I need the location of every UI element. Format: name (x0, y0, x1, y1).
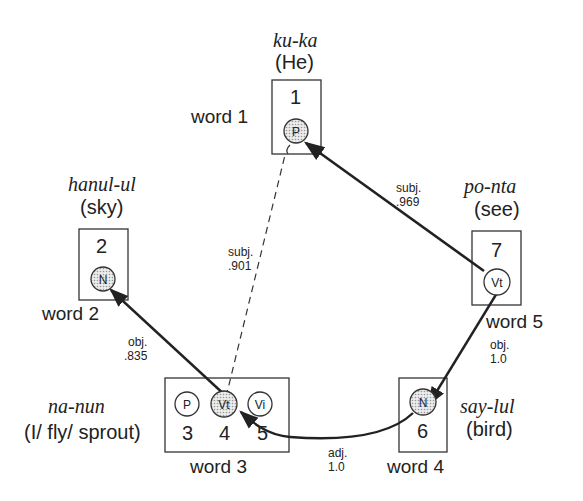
edge-relation: subj. (228, 245, 253, 259)
word3-korean: na-nun (48, 396, 105, 416)
word5-unit-num: 7 (491, 240, 502, 260)
word3-label: word 3 (190, 457, 247, 476)
word4-korean: say-lul (460, 396, 514, 416)
word5-korean: po-nta (464, 176, 516, 196)
edge-obj-10 (429, 293, 497, 404)
word4-label: word 4 (387, 457, 444, 476)
word2-label: word 2 (42, 304, 99, 323)
edge-weight: 1.0 (328, 460, 347, 474)
edge-label-subj-901: subj. .901 (228, 245, 253, 273)
word4-unit-num: 6 (417, 421, 428, 441)
word1-gloss: (He) (275, 52, 314, 72)
edge-weight: 1.0 (490, 352, 509, 366)
edge-label-adj-10: adj. 1.0 (328, 446, 347, 474)
edge-weight: .901 (228, 259, 253, 273)
word5-label: word 5 (486, 312, 543, 331)
node-3-tag: P (183, 398, 191, 412)
edge-relation: obj. (118, 335, 147, 349)
node-6-tag: N (419, 396, 428, 410)
word1-korean: ku-ka (273, 30, 317, 50)
word2-gloss: (sky) (80, 197, 123, 217)
word5-gloss: (see) (474, 199, 520, 219)
word3-unit-num-4: 4 (219, 423, 230, 443)
edge-label-obj-835: obj. .835 (118, 335, 147, 363)
edge-subj-969 (306, 143, 484, 271)
node-4-tag: Vt (218, 398, 230, 412)
edge-weight: .969 (396, 195, 421, 209)
word3-unit-num-5: 5 (257, 423, 268, 443)
word1-label: word 1 (191, 107, 248, 126)
word3-gloss: (I/ fly/ sprout) (24, 422, 141, 442)
node-1-tag: P (292, 125, 300, 139)
node-2-tag: N (99, 273, 108, 287)
edge-subj-901 (226, 155, 285, 397)
word3-unit-num-3: 3 (182, 423, 193, 443)
word1-unit-num: 1 (290, 87, 301, 107)
edge-weight: .835 (118, 349, 147, 363)
word2-unit-num: 2 (96, 236, 107, 256)
edge-relation: subj. (396, 181, 421, 195)
edge-relation: adj. (328, 446, 347, 460)
edge-relation: obj. (490, 338, 509, 352)
word4-gloss: (bird) (466, 419, 513, 439)
word2-korean: hanul-ul (68, 174, 136, 194)
node-7-tag: Vt (491, 276, 503, 290)
edge-label-obj-10: obj. 1.0 (490, 338, 509, 366)
edge-subj-901-tail (287, 145, 290, 154)
node-5-tag: Vi (255, 398, 265, 412)
edge-label-subj-969: subj. .969 (396, 181, 421, 209)
